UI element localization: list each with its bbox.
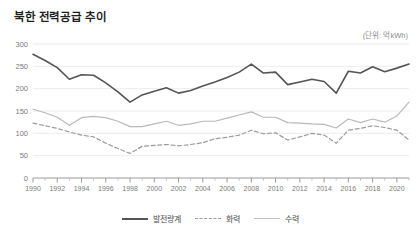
x-axis-tick-label: 2014 bbox=[316, 185, 332, 192]
x-axis-tick-label: 2002 bbox=[171, 185, 187, 192]
x-axis-tick-label: 2016 bbox=[341, 185, 357, 192]
legend-label-hydro: 수력 bbox=[285, 213, 299, 224]
legend-line-icon-hydro bbox=[254, 218, 280, 219]
y-axis-tick-label: 200 bbox=[15, 84, 28, 93]
x-axis-tick-label: 1996 bbox=[98, 185, 114, 192]
legend-item-thermal[interactable]: 화력 bbox=[195, 213, 240, 224]
series-line-total bbox=[33, 54, 409, 102]
legend-line-icon-thermal bbox=[195, 218, 221, 219]
x-axis-tick-label: 2018 bbox=[365, 185, 381, 192]
series-line-thermal bbox=[33, 123, 409, 153]
y-axis-tick-label: 0 bbox=[24, 174, 28, 183]
y-axis-tick-label: 150 bbox=[15, 107, 28, 116]
x-axis-tick-label: 1994 bbox=[74, 185, 90, 192]
x-axis-tick-label: 1998 bbox=[122, 185, 138, 192]
x-axis-tick-label: 2012 bbox=[292, 185, 308, 192]
legend-label-thermal: 화력 bbox=[226, 213, 240, 224]
series-line-hydro bbox=[33, 102, 409, 128]
y-axis-tick-label: 250 bbox=[15, 62, 28, 71]
legend-item-total[interactable]: 발전량계 bbox=[122, 213, 181, 224]
x-axis-tick-label: 2000 bbox=[147, 185, 163, 192]
y-axis-tick-label: 300 bbox=[15, 40, 28, 49]
x-axis-tick-label: 2020 bbox=[389, 185, 405, 192]
chart-legend: 발전량계 화력 수력 bbox=[0, 213, 420, 224]
y-axis-labels: 050100150200250300 bbox=[15, 40, 28, 183]
y-axis-tick-label: 50 bbox=[20, 151, 28, 160]
chart-plot-area: 050100150200250300 199019921994199619982… bbox=[0, 0, 420, 230]
x-axis-tick-label: 2008 bbox=[244, 185, 260, 192]
data-series-layer bbox=[33, 54, 409, 153]
legend-line-icon-total bbox=[122, 218, 148, 220]
chart-card: 북한 전력공급 추이 (단위: 억kWh) 050100150200250300… bbox=[0, 0, 420, 230]
x-axis-tick-label: 1990 bbox=[25, 185, 41, 192]
x-axis bbox=[33, 178, 409, 183]
gridlines bbox=[33, 44, 409, 156]
y-axis-tick-label: 100 bbox=[15, 129, 28, 138]
x-axis-labels: 1990199219941996199820002002200420062008… bbox=[25, 185, 405, 192]
x-axis-tick-label: 1992 bbox=[49, 185, 65, 192]
x-axis-tick-label: 2004 bbox=[195, 185, 211, 192]
line-chart-svg: 050100150200250300 199019921994199619982… bbox=[0, 0, 420, 230]
legend-label-total: 발전량계 bbox=[153, 213, 181, 224]
x-axis-tick-label: 2010 bbox=[268, 185, 284, 192]
legend-item-hydro[interactable]: 수력 bbox=[254, 213, 299, 224]
x-axis-tick-label: 2006 bbox=[219, 185, 235, 192]
